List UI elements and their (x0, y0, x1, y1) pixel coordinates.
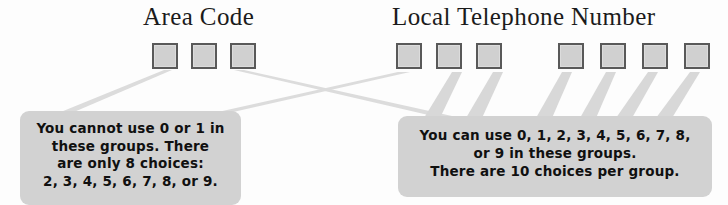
digit-group-line-number (558, 43, 710, 69)
callout-line: You can use 0, 1, 2, 3, 4, 5, 6, 7, 8, (406, 126, 704, 144)
pointer-right-callout-1 (424, 72, 462, 118)
pointer-right-callout-5 (616, 72, 658, 118)
digit-box[interactable] (684, 43, 710, 69)
callout-area-code: You cannot use 0 or 1 in these groups. T… (20, 111, 241, 205)
callout-line: 2, 3, 4, 5, 6, 7, 8, or 9. (26, 173, 235, 191)
digit-box[interactable] (152, 43, 178, 69)
heading-area-code: Area Code (143, 4, 254, 29)
callout-line: or 9 in these groups. (406, 144, 704, 162)
digit-box[interactable] (396, 43, 422, 69)
connector-areacode-to-right-callout (234, 70, 470, 120)
digit-box[interactable] (642, 43, 668, 69)
pointer-right-callout-6 (656, 72, 700, 118)
digit-box[interactable] (191, 43, 217, 69)
digit-box[interactable] (230, 43, 256, 69)
digit-box[interactable] (558, 43, 584, 69)
pointer-right-callout-3 (536, 72, 572, 118)
heading-local-number: Local Telephone Number (392, 4, 655, 29)
digit-box[interactable] (600, 43, 626, 69)
callout-line: You cannot use 0 or 1 in (26, 120, 235, 138)
digit-group-area-code (152, 43, 256, 69)
callout-line: are only 8 choices: (26, 155, 235, 173)
digit-group-prefix (396, 43, 502, 69)
digit-box[interactable] (476, 43, 502, 69)
callout-local-number: You can use 0, 1, 2, 3, 4, 5, 6, 7, 8, o… (398, 116, 712, 197)
telephone-number-diagram: Area Code Local Telephone Number You can… (0, 0, 728, 205)
callout-line: There are 10 choices per group. (406, 162, 704, 180)
pointer-right-callout-4 (580, 72, 616, 118)
digit-box[interactable] (436, 43, 462, 69)
pointer-right-callout-2 (466, 72, 503, 118)
callout-line: these groups. There (26, 138, 235, 156)
